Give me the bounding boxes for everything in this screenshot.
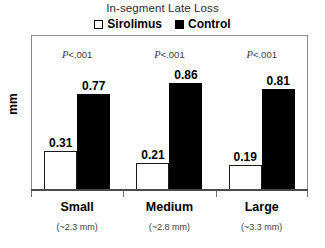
legend-label-sirolimus: Sirolimus: [107, 17, 162, 31]
bar-medium-control: [169, 83, 202, 189]
x-axis-sublabel-small: (~2.3 mm): [31, 222, 123, 232]
bar-medium-sirolimus: [136, 163, 169, 189]
filled-square-icon: [175, 20, 184, 29]
legend-item-control: Control: [175, 17, 231, 31]
bar-wrap-small-sirolimus: 0.31: [44, 35, 77, 189]
bar-small-sirolimus: [44, 151, 77, 189]
x-axis-label-medium: Medium: [123, 200, 215, 214]
in-segment-late-loss-bar-chart: In-segment Late Loss Sirolimus Control m…: [0, 0, 325, 248]
chart-legend: Sirolimus Control: [0, 17, 325, 31]
bar-group-medium: PP<.001<.001 0.21 0.86: [123, 35, 215, 189]
bar-large-control: [262, 89, 295, 189]
bar-large-sirolimus: [229, 165, 262, 189]
bar-value-small-control: 0.77: [82, 79, 105, 93]
bar-value-small-sirolimus: 0.31: [49, 136, 72, 150]
bar-small-control: [77, 94, 110, 189]
axis-tick-medium-large: [216, 191, 217, 197]
open-square-icon: [94, 20, 103, 29]
x-axis-label-small: Small: [31, 200, 123, 214]
bar-group-large: PP<.001<.001 0.19 0.81: [216, 35, 308, 189]
legend-item-sirolimus: Sirolimus: [94, 17, 162, 31]
chart-title: In-segment Late Loss: [0, 2, 325, 14]
bar-value-large-sirolimus: 0.19: [234, 150, 257, 164]
plot-area: PP<.001<.001 0.31 0.77 PP<.001<.001 0: [31, 35, 308, 189]
bar-value-medium-control: 0.86: [174, 68, 197, 82]
axis-tick-small-medium: [123, 191, 124, 197]
y-axis-label: mm: [6, 93, 20, 115]
bar-wrap-medium-control: 0.86: [169, 35, 202, 189]
bar-value-medium-sirolimus: 0.21: [141, 148, 164, 162]
x-axis-baseline: [31, 189, 308, 191]
legend-label-control: Control: [188, 17, 231, 31]
x-axis-sublabel-medium: (~2.8 mm): [123, 222, 215, 232]
bar-value-large-control: 0.81: [267, 74, 290, 88]
axis-tick-right: [307, 191, 308, 197]
bar-wrap-large-control: 0.81: [262, 35, 295, 189]
bar-wrap-small-control: 0.77: [77, 35, 110, 189]
axis-tick-left: [31, 191, 32, 197]
bar-wrap-medium-sirolimus: 0.21: [136, 35, 169, 189]
x-axis-label-large: Large: [216, 200, 308, 214]
x-axis-sublabel-large: (~3.3 mm): [216, 222, 308, 232]
bar-wrap-large-sirolimus: 0.19: [229, 35, 262, 189]
bar-group-small: PP<.001<.001 0.31 0.77: [31, 35, 123, 189]
